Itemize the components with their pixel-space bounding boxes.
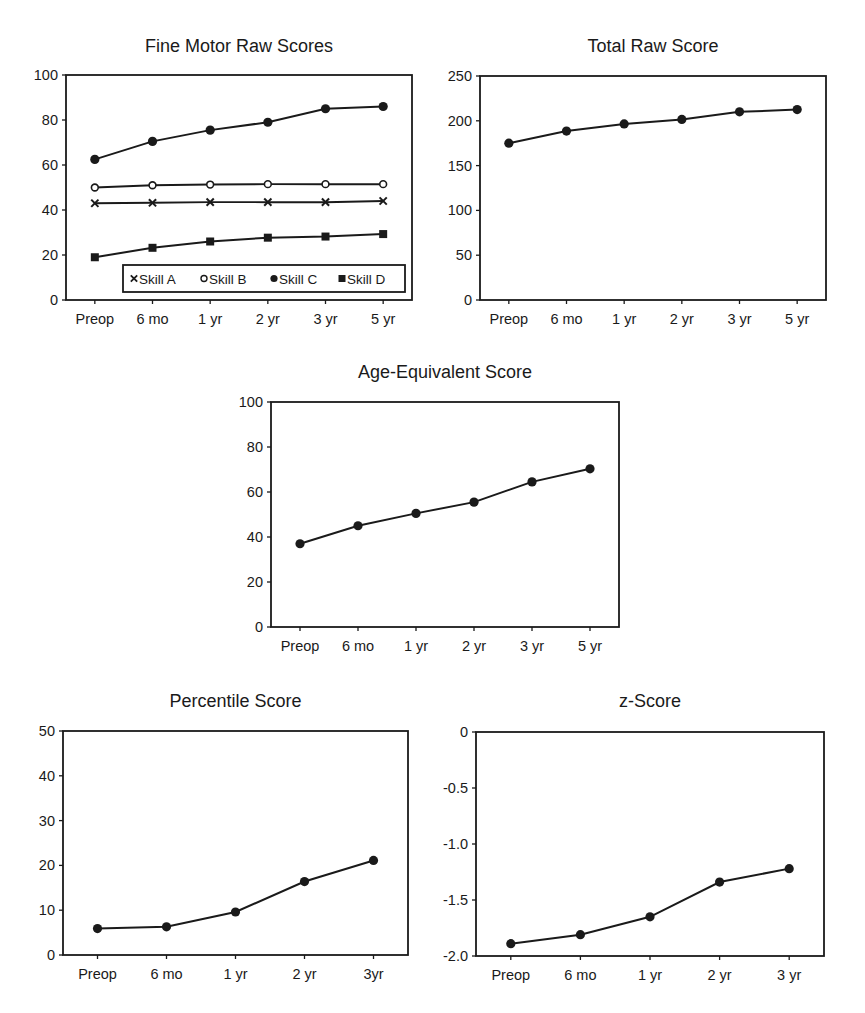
x-tick-label: Preop (491, 967, 530, 983)
data-point (645, 912, 654, 921)
data-point (300, 877, 309, 886)
legend-marker (201, 276, 207, 282)
data-point (504, 139, 513, 148)
x-tick-label: 3 yr (777, 967, 801, 983)
y-tick-label: 40 (39, 768, 55, 784)
y-tick-label: 40 (42, 202, 58, 218)
plot-area (271, 402, 619, 627)
data-point (677, 115, 686, 124)
data-point (715, 877, 724, 886)
data-point (585, 464, 594, 473)
y-axis: 020406080100 (239, 394, 271, 635)
series-skill-d (91, 230, 387, 261)
x-tick-label: 6 mo (136, 311, 168, 327)
series-skill-a (91, 197, 387, 206)
data-point (506, 939, 515, 948)
x-tick-label: 3 yr (313, 311, 337, 327)
x-tick-label: 3 yr (520, 638, 544, 654)
series-line (95, 184, 383, 187)
series-percentile-score (93, 856, 378, 933)
y-tick-label: -1.5 (443, 892, 468, 908)
data-point (207, 181, 214, 188)
legend-label: Skill C (279, 272, 318, 287)
plot-area (476, 732, 824, 956)
y-tick-label: 80 (42, 112, 58, 128)
y-tick-label: 20 (42, 247, 58, 263)
x-axis: Preop6 mo1 yr2 yr3yr (78, 955, 384, 982)
data-point (379, 230, 387, 238)
y-tick-label: 50 (39, 723, 55, 739)
data-point (295, 539, 304, 548)
x-axis: Preop6 mo1 yr2 yr3 yr5 yr (489, 300, 809, 327)
y-tick-label: 20 (39, 857, 55, 873)
series-line (98, 860, 374, 928)
data-point (380, 181, 387, 188)
x-tick-label: 5 yr (785, 311, 809, 327)
x-tick-label: Preop (78, 966, 117, 982)
legend-marker (270, 275, 277, 282)
series-total-raw-score (504, 105, 802, 148)
y-tick-label: 150 (448, 158, 472, 174)
data-point (206, 126, 215, 135)
data-point (93, 924, 102, 933)
data-point (620, 119, 629, 128)
data-point (562, 127, 571, 136)
legend-label: Skill A (139, 272, 176, 287)
chart-title: Percentile Score (169, 691, 301, 711)
x-tick-label: 6 mo (564, 967, 596, 983)
y-tick-label: 100 (34, 67, 58, 83)
y-tick-label: -2.0 (443, 948, 468, 964)
chart-title: z-Score (619, 691, 681, 711)
y-tick-label: 0 (255, 619, 263, 635)
chart-title: Total Raw Score (587, 36, 718, 56)
series-z-score (506, 864, 794, 948)
series-line (95, 234, 383, 257)
data-point (149, 182, 156, 189)
x-axis: Preop6 mo1 yr2 yr3 yr5 yr (281, 627, 603, 654)
data-point (322, 181, 329, 188)
x-axis: Preop6 mo1 yr2 yr3 yr5 yr (75, 300, 395, 327)
y-tick-label: 40 (247, 529, 263, 545)
series-line (509, 110, 797, 144)
data-point (264, 181, 271, 188)
y-tick-label: 20 (247, 574, 263, 590)
x-tick-label: 1 yr (612, 311, 636, 327)
x-tick-label: 3 yr (727, 311, 751, 327)
x-tick-label: 5 yr (578, 638, 602, 654)
data-point (264, 234, 272, 242)
chart-z-score: z-Score-2.0-1.5-1.0-0.50Preop6 mo1 yr2 y… (443, 691, 824, 983)
y-tick-label: 10 (39, 902, 55, 918)
x-tick-label: 2 yr (292, 966, 316, 982)
legend-label: Skill D (347, 272, 386, 287)
series-line (95, 107, 383, 160)
data-point (469, 498, 478, 507)
x-tick-label: 1 yr (198, 311, 222, 327)
x-tick-label: 5 yr (371, 311, 395, 327)
data-point (735, 107, 744, 116)
y-tick-label: 100 (448, 202, 472, 218)
data-point (785, 864, 794, 873)
y-tick-label: -1.0 (443, 836, 468, 852)
y-tick-label: 200 (448, 113, 472, 129)
x-tick-label: 1 yr (223, 966, 247, 982)
series-skill-c (90, 102, 388, 164)
x-tick-label: 3yr (363, 966, 383, 982)
data-point (411, 509, 420, 518)
x-tick-label: 2 yr (256, 311, 280, 327)
chart-title: Age-Equivalent Score (358, 362, 532, 382)
x-tick-label: 1 yr (638, 967, 662, 983)
legend: Skill ASkill BSkill CSkill D (123, 265, 405, 292)
plot-area (63, 731, 408, 955)
series-line (300, 469, 590, 544)
x-tick-label: 2 yr (670, 311, 694, 327)
x-axis: Preop6 mo1 yr2 yr3 yr (491, 956, 801, 983)
x-tick-label: 6 mo (342, 638, 374, 654)
data-point (91, 253, 99, 261)
data-point (379, 102, 388, 111)
chart-total-raw: Total Raw Score050100150200250Preop6 mo1… (448, 36, 826, 327)
y-axis: 020406080100 (34, 67, 66, 308)
y-tick-label: 0 (460, 724, 468, 740)
data-point (576, 930, 585, 939)
series-skill-b (91, 181, 386, 191)
y-tick-label: 250 (448, 68, 472, 84)
